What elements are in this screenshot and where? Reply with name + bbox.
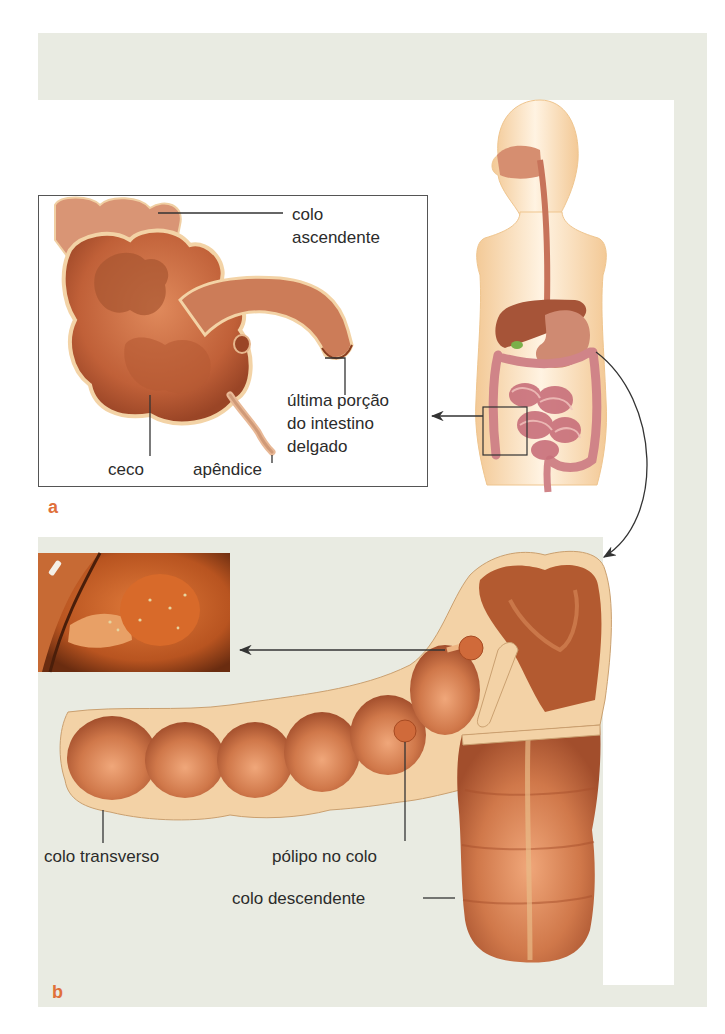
label-ultima-porcao-line1: última porção	[287, 391, 389, 411]
label-ceco: ceco	[108, 460, 144, 480]
endoscopy-photo	[38, 553, 230, 672]
label-ultima-porcao-line2: do intestino	[287, 414, 374, 434]
panel-a-letter: a	[48, 497, 58, 518]
label-apendice: apêndice	[193, 460, 262, 480]
label-colo-ascendente-line2: ascendente	[292, 228, 380, 248]
human-body-figure	[476, 100, 607, 492]
label-colo-ascendente-line1: colo	[292, 205, 323, 225]
label-ultima-porcao-line3: delgado	[287, 437, 348, 457]
panel-b-letter: b	[52, 982, 63, 1003]
label-polipo-no-colo: pólipo no colo	[272, 847, 377, 867]
label-colo-transverso: colo transverso	[44, 847, 159, 867]
label-colo-descendente: colo descendente	[232, 889, 365, 909]
illustration-layer	[0, 0, 725, 1034]
